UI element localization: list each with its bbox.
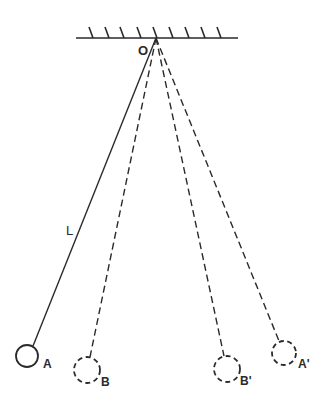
bob-label-A-prime: A' xyxy=(298,358,310,370)
ceiling-hatch xyxy=(120,27,124,38)
ceiling-hatch xyxy=(89,27,93,38)
bob-A xyxy=(16,345,38,367)
ceiling-support xyxy=(76,27,238,38)
string-B-prime xyxy=(156,38,224,356)
length-label: L xyxy=(66,224,73,237)
bob-label-B-prime: B' xyxy=(240,375,252,387)
string-B xyxy=(90,38,156,357)
ceiling-hatch xyxy=(105,27,109,38)
bob-label-B: B xyxy=(101,376,110,388)
ceiling-hatch xyxy=(137,27,141,38)
pendulum-diagram xyxy=(0,0,327,411)
string-A xyxy=(33,38,156,346)
pivot-label: O xyxy=(138,44,148,57)
bob-B-prime xyxy=(214,356,240,382)
ceiling-hatch xyxy=(217,27,221,38)
ceiling-hatch xyxy=(153,27,157,38)
ceiling-hatch xyxy=(201,27,205,38)
bob-A-prime xyxy=(272,341,296,365)
string-A-prime xyxy=(156,38,279,341)
ceiling-hatch xyxy=(169,27,173,38)
bob-B xyxy=(74,357,100,383)
ceiling-hatch xyxy=(185,27,189,38)
bob-label-A: A xyxy=(43,358,52,370)
